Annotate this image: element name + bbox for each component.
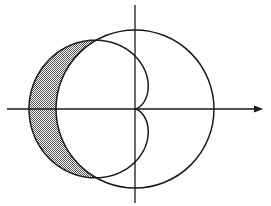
x-axis-arrow-icon [254,106,263,113]
polar-diagram [0,0,271,206]
